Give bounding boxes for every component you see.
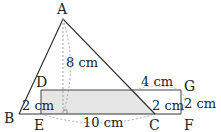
label-8cm: 8 cm xyxy=(66,55,98,70)
label-2cm-left: 2 cm xyxy=(22,98,54,113)
label-a: A xyxy=(56,1,68,17)
label-d: D xyxy=(36,74,47,90)
label-2cm-inner: 2 cm xyxy=(152,98,184,113)
label-4cm: 4 cm xyxy=(141,74,173,89)
shaded-region xyxy=(41,90,153,114)
label-b: B xyxy=(4,110,14,126)
label-2cm-right: 2 cm xyxy=(184,96,216,111)
label-f: F xyxy=(184,117,194,132)
geometry-diagram: A B C D E F G 8 cm 2 cm 10 cm 4 cm 2 cm … xyxy=(0,0,221,132)
label-10cm: 10 cm xyxy=(83,115,123,130)
label-e: E xyxy=(34,117,44,132)
label-c: C xyxy=(149,117,160,132)
label-g: G xyxy=(184,78,195,94)
